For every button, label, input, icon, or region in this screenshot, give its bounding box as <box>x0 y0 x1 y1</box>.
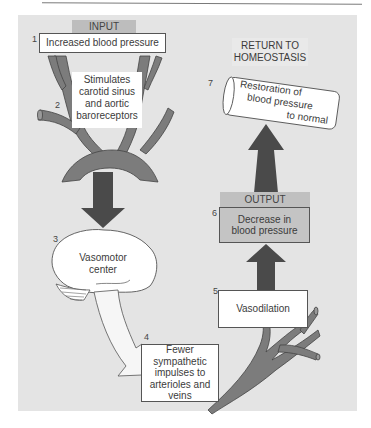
step-4-number: 4 <box>144 332 149 342</box>
step-6-line: blood pressure <box>231 225 297 237</box>
step-1-number: 1 <box>32 34 37 44</box>
arrow-up-to-output-icon <box>246 244 286 294</box>
step-5-text: Vasodilation <box>236 303 290 315</box>
step-4-box: Fewer sympathetic impulses to arterioles… <box>141 344 219 402</box>
step-3-line: center <box>70 264 136 276</box>
step-3-line: Vasomotor <box>70 252 136 264</box>
step-4-line: arterioles and <box>150 379 211 391</box>
homeostasis-line: RETURN TO <box>232 40 308 52</box>
step-2-line: carotid sinus <box>72 86 142 98</box>
step-2-line: baroreceptors <box>72 110 142 122</box>
step-6-box: Decrease in blood pressure <box>219 207 310 243</box>
input-tag: INPUT <box>72 20 136 33</box>
step-1-box: Increased blood pressure <box>39 33 166 53</box>
step-4-line: Fewer <box>166 344 194 356</box>
step-1-text: Increased blood pressure <box>46 37 159 49</box>
step-2-line: Stimulates <box>72 74 142 86</box>
arrow-down-to-brain-icon <box>81 172 125 228</box>
step-3-number: 3 <box>53 234 58 244</box>
step-2-label: Stimulates carotid sinus and aortic baro… <box>72 72 142 128</box>
step-6-line: Decrease in <box>238 214 291 226</box>
step-7-number: 7 <box>208 78 213 88</box>
step-5-box: Vasodilation <box>218 290 308 328</box>
step-4-line: impulses to <box>155 367 206 379</box>
homeostasis-line: HOMEOSTASIS <box>232 52 308 64</box>
arrow-up-to-homeostasis-icon <box>248 124 284 193</box>
step-2-line: and aortic <box>72 98 142 110</box>
output-tag: OUTPUT <box>220 192 310 207</box>
homeostasis-tag: RETURN TO HOMEOSTASIS <box>232 38 308 66</box>
step-6-number: 6 <box>212 208 217 218</box>
step-4-line: sympathetic <box>153 356 206 368</box>
nerve-arrow-icon <box>94 290 142 376</box>
step-3-label: Vasomotor center <box>70 252 136 276</box>
step-4-line: veins <box>168 390 191 402</box>
step-2-number: 2 <box>55 100 60 110</box>
